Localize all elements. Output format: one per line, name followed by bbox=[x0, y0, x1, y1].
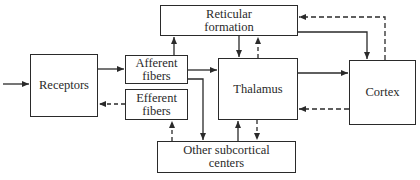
neural-pathway-diagram: Receptors Afferent fibers Efferent fiber… bbox=[0, 0, 420, 180]
cortex-label: Cortex bbox=[365, 86, 399, 99]
cortex-box: Cortex bbox=[349, 60, 416, 125]
receptors-label: Receptors bbox=[39, 79, 89, 92]
afferent-fibers-box: Afferent fibers bbox=[125, 55, 188, 84]
efferent-fibers-label: Efferent fibers bbox=[136, 92, 177, 118]
reticular-to-cortex-arrow bbox=[298, 32, 367, 59]
efferent-fibers-box: Efferent fibers bbox=[125, 89, 188, 120]
receptors-box: Receptors bbox=[30, 54, 98, 117]
other-subcortical-centers-label: Other subcortical centers bbox=[183, 144, 269, 170]
cortex-to-reticular-arrow bbox=[299, 17, 385, 60]
afferent-fibers-label: Afferent fibers bbox=[135, 57, 177, 83]
other-subcortical-centers-box: Other subcortical centers bbox=[157, 141, 296, 173]
thalamus-box: Thalamus bbox=[218, 58, 298, 120]
thalamus-label: Thalamus bbox=[233, 83, 282, 96]
afferent-to-subcortical-arrow bbox=[188, 79, 203, 140]
reticular-formation-box: Reticular formation bbox=[160, 5, 298, 36]
reticular-formation-label: Reticular formation bbox=[204, 8, 253, 34]
